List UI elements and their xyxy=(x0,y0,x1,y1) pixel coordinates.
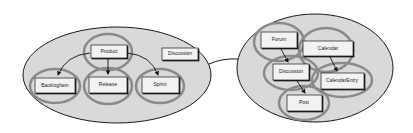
box-release-label: Release xyxy=(99,81,118,87)
right-cluster: Forum Calendar Discussion CalendarEntry … xyxy=(237,14,393,122)
box-forum-label: Forum xyxy=(272,36,286,42)
box-post-label: Post xyxy=(299,99,310,105)
box-sprint-label: Sprint xyxy=(153,81,167,87)
box-forum: Forum xyxy=(261,32,297,48)
box-post: Post xyxy=(287,95,322,111)
box-calendar: Calendar xyxy=(303,41,353,56)
left-cluster-ellipse xyxy=(23,27,211,123)
box-backlogitem-label: BacklogItem xyxy=(41,82,69,88)
box-discussion-left: Discussion xyxy=(162,48,198,60)
box-product-label: Product xyxy=(100,48,118,54)
cluster-connector-line xyxy=(209,59,239,64)
box-backlogitem: BacklogItem xyxy=(35,78,75,93)
left-cluster: Product Discussion BacklogItem Release S… xyxy=(23,27,211,123)
box-sprint: Sprint xyxy=(142,77,179,93)
box-calendarentry: CalendarEntry xyxy=(321,73,364,89)
box-calendar-label: Calendar xyxy=(318,45,339,51)
box-calendarentry-label: CalendarEntry xyxy=(326,77,358,83)
box-discussion-right-label: Discussion xyxy=(279,68,303,74)
diagram-canvas: Product Discussion BacklogItem Release S… xyxy=(0,0,413,133)
box-product: Product xyxy=(91,45,127,58)
box-release: Release xyxy=(89,77,127,93)
box-discussion-left-label: Discussion xyxy=(168,50,192,56)
box-discussion-right: Discussion xyxy=(273,64,309,80)
